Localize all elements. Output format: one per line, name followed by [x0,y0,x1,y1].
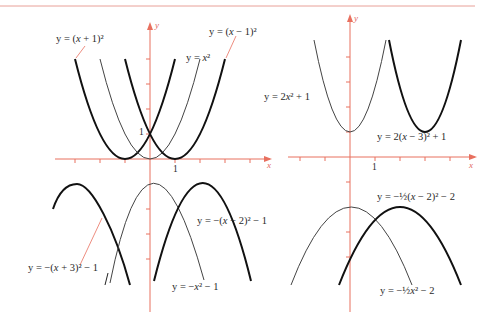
label-neg-x-minus-2-squared-minus-1: y = −(x − 2)² − 1 [197,215,267,226]
label-neg-x-plus-3-squared-minus-1: y = −(x + 3)² − 1 [28,262,98,273]
left-y-axis-label: y [155,20,159,30]
right-y-arrow-icon [347,14,353,22]
right-y-axis-label: y [354,13,358,23]
curve-neg-x-minus-2-squared-minus-1 [154,183,251,281]
label-2x-squared-plus-1: y = 2x² + 1 [264,91,310,102]
left-y-arrow-icon [147,22,153,30]
curve-neg-half-x-minus-2-squared-minus-2 [339,207,461,285]
pointer-arrow-icon [80,218,102,265]
right-x-tick-1: 1 [372,162,377,172]
label-x-plus-1-squared: y = (x + 1)² [56,33,104,44]
curve-x-minus-1-squared [125,59,225,159]
label-x-minus-1-squared: y = (x − 1)² [209,26,257,37]
label-x-squared: y = x² [186,52,210,63]
label-neg-half-x-squared-minus-2: y = −½x² − 2 [380,285,434,296]
parabola-figure [0,0,500,325]
label-2-x-minus-3-squared-plus-1: y = 2(x − 3)² + 1 [377,131,446,142]
curve-neg-half-x-squared-minus-2 [291,207,412,285]
pointer-arrow-icon [76,46,85,58]
curve-x-plus-1-squared [75,59,175,159]
right-x-axis-label: x [469,160,473,170]
pointer-arrow-icon [226,36,236,58]
curve-2-x-minus-3-squared-plus-1 [389,40,461,132]
left-x-axis-label: x [267,160,271,170]
label-neg-x-squared-minus-1: y = −x² − 1 [172,281,219,292]
left-y-tick-1: 1 [139,127,144,137]
label-neg-half-x-minus-2-squared-minus-2: y = −½(x − 2)² − 2 [377,191,455,202]
left-x-tick-1: 1 [173,164,178,174]
pointer-mark [105,273,108,285]
